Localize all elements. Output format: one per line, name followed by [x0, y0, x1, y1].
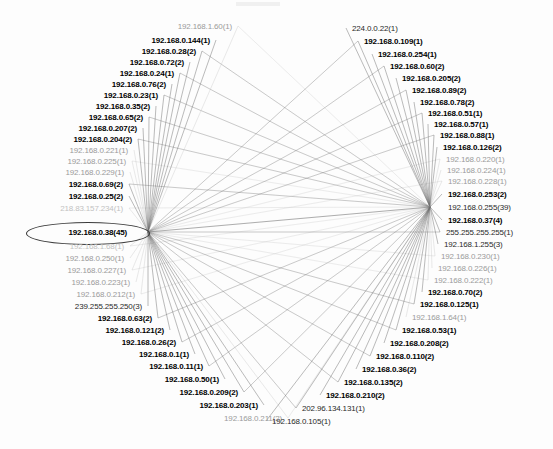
node-label-192-168-0-221-1-[interactable]: 192.168.0.221(1)	[69, 146, 128, 155]
node-label-192-168-0-76-2-[interactable]: 192.168.0.76(2)	[112, 80, 166, 89]
graph-edge	[148, 135, 434, 232]
node-label-192-168-0-28-2-[interactable]: 192.168.0.28(2)	[142, 47, 196, 56]
node-label-192-168-0-253-2-[interactable]: 192.168.0.253(2)	[448, 190, 507, 199]
node-label-192-168-0-88-1-[interactable]: 192.168.0.88(1)	[440, 131, 494, 140]
graph-edge	[148, 232, 338, 382]
node-label-192-168-0-250-1-[interactable]: 192.168.0.250(1)	[65, 254, 124, 263]
graph-edge	[180, 73, 430, 207]
graph-edge	[136, 232, 148, 282]
node-label-192-168-0-60-2-[interactable]: 192.168.0.60(2)	[390, 62, 444, 71]
node-label-192-168-0-24-1-[interactable]: 192.168.0.24(1)	[120, 69, 174, 78]
node-label-192-168-0-229-1-[interactable]: 192.168.0.229(1)	[65, 168, 124, 177]
node-label-192-168-0-220-1-[interactable]: 192.168.0.220(1)	[446, 155, 505, 164]
node-label-192-168-0-89-2-[interactable]: 192.168.0.89(2)	[412, 86, 466, 95]
graph-edge	[148, 84, 172, 232]
node-label-192-168-0-222-1-[interactable]: 192.168.0.222(1)	[434, 276, 493, 285]
graph-edge	[384, 207, 430, 343]
node-label-192-168-0-72-2-[interactable]: 192.168.0.72(2)	[130, 58, 184, 67]
node-label-192-168-1-60-1-[interactable]: 192.168.1.60(1)	[178, 22, 232, 31]
graph-edge	[132, 161, 430, 207]
node-label-192-168-1-255-3-[interactable]: 192.168.1.255(3)	[444, 240, 503, 249]
node-label-192-168-0-109-1-[interactable]: 192.168.0.109(1)	[364, 37, 423, 46]
node-label-192-168-0-135-2-[interactable]: 192.168.0.135(2)	[344, 378, 403, 387]
node-label-192-168-0-23-1-[interactable]: 192.168.0.23(1)	[104, 91, 158, 100]
node-label-192-168-0-254-1-[interactable]: 192.168.0.254(1)	[378, 50, 437, 59]
graph-edge	[158, 207, 430, 318]
graph-edge	[148, 232, 370, 356]
node-label-255-255-255-255-1-[interactable]: 255.255.255.255(1)	[446, 228, 513, 237]
node-label-192-168-0-36-2-[interactable]: 192.168.0.36(2)	[362, 365, 416, 374]
node-label-192-168-0-125-1-[interactable]: 192.168.0.125(1)	[420, 300, 479, 309]
node-label-192-168-0-210-2-[interactable]: 192.168.0.210(2)	[326, 391, 385, 400]
graph-edge	[430, 147, 437, 207]
node-label-192-168-0-105-1-[interactable]: 192.168.0.105(1)	[272, 417, 331, 426]
node-label-192-168-0-255-39-[interactable]: 192.168.0.255(39)	[448, 203, 511, 212]
graph-edge	[266, 207, 430, 421]
edge-layer	[0, 0, 553, 449]
node-label-202-96-134-131-1-[interactable]: 202.96.134.131(1)	[302, 404, 365, 413]
graph-edge	[148, 232, 435, 256]
graph-edge	[132, 161, 148, 232]
node-label-192-168-0-38-45-[interactable]: 192.168.0.38(45)	[68, 228, 127, 237]
node-label-192-168-0-25-2-[interactable]: 192.168.0.25(2)	[69, 192, 123, 201]
graph-edge	[129, 207, 430, 208]
node-label-192-168-0-11-1-[interactable]: 192.168.0.11(1)	[149, 362, 203, 371]
node-label-192-168-0-225-1-[interactable]: 192.168.0.225(1)	[67, 157, 126, 166]
node-label-192-168-0-110-2-[interactable]: 192.168.0.110(2)	[376, 352, 434, 361]
node-label-192-168-0-63-2-[interactable]: 192.168.0.63(2)	[98, 314, 152, 323]
node-label-192-168-0-230-1-[interactable]: 192.168.0.230(1)	[441, 252, 500, 261]
node-label-192-168-0-35-2-[interactable]: 192.168.0.35(2)	[96, 102, 150, 111]
node-label-192-168-0-227-1-[interactable]: 192.168.0.227(1)	[67, 266, 126, 275]
graph-edge	[406, 90, 430, 207]
node-label-239-255-255-250-3-[interactable]: 239.255.255.250(3)	[75, 302, 142, 311]
graph-edge	[148, 90, 406, 232]
node-label-192-168-0-144-1-[interactable]: 192.168.0.144(1)	[151, 36, 210, 45]
node-label-192-168-0-70-2-[interactable]: 192.168.0.70(2)	[428, 288, 482, 297]
node-label-192-168-0-224-1-[interactable]: 192.168.0.224(1)	[447, 166, 506, 175]
node-label-192-168-0-203-1-[interactable]: 192.168.0.203(1)	[199, 401, 258, 410]
node-label-192-168-0-57-1-[interactable]: 192.168.0.57(1)	[434, 120, 488, 129]
node-label-192-168-0-208-2-[interactable]: 192.168.0.208(2)	[390, 339, 449, 348]
node-label-192-168-0-226-1-[interactable]: 192.168.0.226(1)	[438, 264, 497, 273]
node-label-192-168-0-26-2-[interactable]: 192.168.0.26(2)	[122, 338, 176, 347]
network-graph-canvas: 192.168.1.60(1)192.168.0.144(1)192.168.0…	[0, 0, 553, 449]
graph-edge	[182, 207, 430, 342]
node-label-192-168-0-53-1-[interactable]: 192.168.0.53(1)	[402, 326, 456, 335]
node-label-192-168-0-65-2-[interactable]: 192.168.0.65(2)	[89, 113, 143, 122]
graph-edge	[148, 232, 414, 304]
graph-edge	[148, 51, 202, 232]
node-label-192-168-0-121-2-[interactable]: 192.168.0.121(2)	[105, 326, 164, 335]
node-label-192-168-0-50-1-[interactable]: 192.168.0.50(1)	[165, 375, 219, 384]
node-label-192-168-0-126-2-[interactable]: 192.168.0.126(2)	[443, 143, 502, 152]
node-label-192-168-1-68-1-[interactable]: 192.168.1.68(1)	[70, 242, 124, 251]
node-label-192-168-1-64-1-[interactable]: 192.168.1.64(1)	[412, 313, 466, 322]
graph-edge	[149, 117, 430, 207]
node-label-192-168-0-212-1-[interactable]: 192.168.0.212(1)	[76, 290, 135, 299]
node-label-218-83-157-234-1-[interactable]: 218.83.157.234(1)	[60, 204, 123, 213]
graph-edge	[141, 232, 148, 294]
node-label-192-168-0-228-1-[interactable]: 192.168.0.228(1)	[448, 177, 507, 186]
node-label-192-168-0-69-2-[interactable]: 192.168.0.69(2)	[69, 180, 123, 189]
node-label-192-168-0-223-1-[interactable]: 192.168.0.223(1)	[71, 278, 130, 287]
graph-edge	[430, 181, 442, 207]
node-label-192-168-0-37-4-[interactable]: 192.168.0.37(4)	[448, 216, 502, 225]
node-label-192-168-0-209-2-[interactable]: 192.168.0.209(2)	[179, 388, 238, 397]
node-label-192-168-0-78-2-[interactable]: 192.168.0.78(2)	[420, 98, 474, 107]
graph-edge	[148, 113, 422, 232]
node-label-192-168-0-1-1-[interactable]: 192.168.0.1(1)	[139, 350, 189, 359]
node-label-192-168-0-205-2-[interactable]: 192.168.0.205(2)	[402, 74, 461, 83]
node-label-192-168-0-204-2-[interactable]: 192.168.0.204(2)	[73, 135, 132, 144]
graph-edge	[148, 41, 358, 232]
node-label-192-168-0-207-2-[interactable]: 192.168.0.207(2)	[78, 124, 137, 133]
graph-edge	[430, 207, 442, 220]
node-label-224-0-0-22-1-[interactable]: 224.0.0.22(1)	[352, 24, 398, 33]
node-label-192-168-0-51-1-[interactable]: 192.168.0.51(1)	[428, 109, 482, 118]
